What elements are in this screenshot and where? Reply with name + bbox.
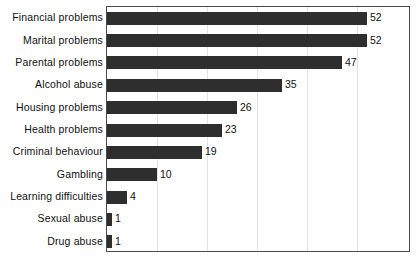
bar bbox=[107, 146, 202, 159]
bar-value-label: 35 bbox=[285, 78, 297, 90]
category-label: Drug abuse bbox=[0, 235, 103, 247]
category-axis-labels: Financial problemsMarital problemsParent… bbox=[0, 6, 103, 252]
bar-chart: Financial problemsMarital problemsParent… bbox=[0, 0, 419, 264]
category-label: Criminal behaviour bbox=[0, 145, 103, 157]
bar-value-label: 23 bbox=[225, 123, 237, 135]
category-label: Learning difficulties bbox=[0, 190, 103, 202]
bar bbox=[107, 34, 367, 47]
plot-area bbox=[106, 6, 410, 252]
bar bbox=[107, 168, 157, 181]
bar bbox=[107, 235, 112, 248]
bar bbox=[107, 101, 237, 114]
bar bbox=[107, 56, 342, 69]
bar-value-label: 1 bbox=[115, 212, 121, 224]
bar bbox=[107, 12, 367, 25]
category-label: Alcohol abuse bbox=[0, 78, 103, 90]
category-label: Gambling bbox=[0, 168, 103, 180]
category-label: Financial problems bbox=[0, 11, 103, 23]
bar-value-label: 47 bbox=[345, 56, 357, 68]
bar bbox=[107, 79, 282, 92]
bar-value-label: 4 bbox=[130, 190, 136, 202]
bar-value-label: 1 bbox=[115, 235, 121, 247]
bar-value-label: 10 bbox=[160, 168, 172, 180]
bar bbox=[107, 213, 112, 226]
category-label: Parental problems bbox=[0, 56, 103, 68]
category-label: Marital problems bbox=[0, 34, 103, 46]
bar bbox=[107, 124, 222, 137]
bar-value-label: 19 bbox=[205, 145, 217, 157]
bar-value-label: 26 bbox=[240, 101, 252, 113]
bar-value-label: 52 bbox=[370, 11, 382, 23]
bar-value-label: 52 bbox=[370, 34, 382, 46]
category-label: Health problems bbox=[0, 123, 103, 135]
category-label: Sexual abuse bbox=[0, 212, 103, 224]
category-label: Housing problems bbox=[0, 101, 103, 113]
bar bbox=[107, 191, 127, 204]
